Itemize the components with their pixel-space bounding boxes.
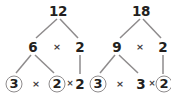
tree-18-level2-right: 2 [158,41,167,54]
tree-12-leaf-b: 2 [50,77,65,92]
tree-12-leaf-a-circle: 3 [6,76,23,93]
tree-12-level2-right: 2 [75,41,84,54]
factor-tree-figure: 12 6 × 2 3 × 2 × 2 18 9 × 2 [0,0,171,98]
tree-18-leaf-a: 3 [91,77,106,92]
tree-12-leaf-b-circle: 2 [49,76,66,93]
tree-12-leaf-c: 2 [75,78,84,91]
tree-12-level2-left: 6 [28,41,37,54]
tree-12-level2-operator: × [53,42,61,52]
tree-12-leaf-op1: × [32,79,40,89]
tree-18-leaf-c: 2 [157,77,172,92]
tree-18-leaf-b: 3 [136,78,145,91]
tree-12-leaf-op2: × [66,79,73,89]
tree-18-leaf-a-circle: 3 [90,76,107,93]
tree-18-level2-left: 9 [112,41,121,54]
tree-18-leaf-op2: × [148,79,155,89]
tree-18-leaf-c-circle: 2 [156,76,172,93]
tree-12-leaf-a: 3 [7,77,22,92]
tree-18-root: 18 [132,5,150,18]
tree-18-level2-operator: × [136,42,144,52]
tree-18-leaf-op1: × [116,79,124,89]
factor-tree-12: 12 6 × 2 3 × 2 × 2 [0,0,86,98]
factor-tree-18: 18 9 × 2 3 × 3 × 2 [86,0,171,98]
tree-12-root: 12 [49,5,67,18]
